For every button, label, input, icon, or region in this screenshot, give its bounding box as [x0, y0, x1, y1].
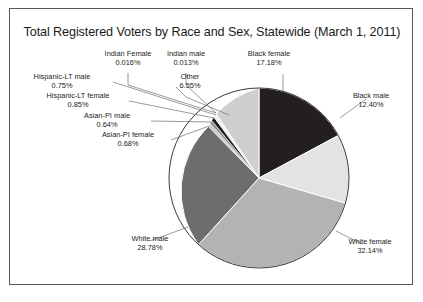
pie-label-black-male: Black male 12.40%: [334, 91, 408, 109]
pie-chart-plot-area: Indian Female 0.016% Indian male 0.013% …: [10, 9, 414, 286]
pie-label-black-male-name: Black male: [334, 91, 408, 100]
pie-label-other: Other 6.55%: [162, 72, 218, 90]
pie-label-hispanic-lt-female-name: Hispanic-LT female: [28, 91, 128, 100]
pie-label-asian-pi-male-value: 0.64%: [66, 120, 148, 129]
pie-label-hispanic-lt-male-value: 0.75%: [16, 81, 108, 90]
pie-label-asian-pi-female-name: Asian-PI female: [82, 130, 174, 139]
pie-label-white-female-value: 32.14%: [330, 246, 410, 255]
figure-frame: Total Registered Voters by Race and Sex,…: [9, 8, 413, 285]
pie-label-white-male: White male 28.78%: [106, 234, 194, 252]
pie-label-asian-pi-female: Asian-PI female 0.68%: [82, 130, 174, 148]
pie-label-indian-male-name: Indian male: [148, 49, 224, 58]
pie-label-asian-pi-male-name: Asian-PI male: [66, 111, 148, 120]
pie-label-hispanic-lt-male: Hispanic-LT male 0.75%: [16, 72, 108, 90]
screenshot-root: Total Registered Voters by Race and Sex,…: [0, 0, 423, 302]
pie-label-hispanic-lt-female: Hispanic-LT female 0.85%: [28, 91, 128, 109]
pie-label-other-name: Other: [162, 72, 218, 81]
pie-label-black-male-value: 12.40%: [334, 100, 408, 109]
pie-label-black-female-value: 17.18%: [224, 58, 314, 67]
pie-label-asian-pi-male: Asian-PI male 0.64%: [66, 111, 148, 129]
pie-label-hispanic-lt-male-name: Hispanic-LT male: [16, 72, 108, 81]
pie-label-white-male-name: White male: [106, 234, 194, 243]
pie-label-indian-male-value: 0.013%: [148, 58, 224, 67]
pie-label-asian-pi-female-value: 0.68%: [82, 139, 174, 148]
pie-label-indian-male: Indian male 0.013%: [148, 49, 224, 67]
pie-label-other-value: 6.55%: [162, 81, 218, 90]
pie-label-black-female-name: Black female: [224, 49, 314, 58]
pie-label-white-male-value: 28.78%: [106, 243, 194, 252]
pie-label-hispanic-lt-female-value: 0.85%: [28, 100, 128, 109]
pie-label-white-female-name: White female: [330, 237, 410, 246]
pie-label-white-female: White female 32.14%: [330, 237, 410, 255]
pie-label-black-female: Black female 17.18%: [224, 49, 314, 67]
leader-line-asian-pi-male: [151, 121, 211, 122]
